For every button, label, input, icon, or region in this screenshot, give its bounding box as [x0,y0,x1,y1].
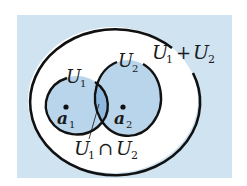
svg-text:2: 2 [131,149,138,162]
svg-text:a: a [114,108,125,128]
svg-text:1: 1 [69,119,75,130]
svg-text:2: 2 [208,53,215,66]
svg-text:1: 1 [166,53,173,66]
label-sum: U 1 + U 2 [152,41,215,66]
svg-text:2: 2 [132,63,138,74]
svg-text:2: 2 [126,119,132,130]
svg-text:+: + [176,42,191,63]
svg-text:1: 1 [88,149,95,162]
svg-text:1: 1 [80,78,86,89]
venn-diagram: U 1 + U 2 U 1 U 2 a 1 a 2 U 1 ∩ U 2 [0,0,247,186]
svg-text:∩: ∩ [98,138,113,159]
svg-text:a: a [57,108,68,128]
label-intersection: U 1 ∩ U 2 [74,137,138,162]
